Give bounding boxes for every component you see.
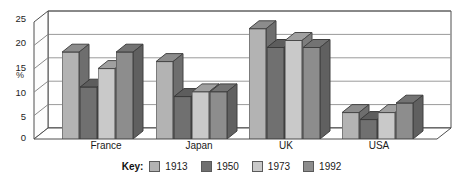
bar-japan-1992 <box>210 0 227 139</box>
legend-swatch-1973 <box>252 161 263 172</box>
legend-label-1913: 1913 <box>165 161 187 172</box>
bar-usa-1973 <box>378 0 395 139</box>
bar-uk-1913 <box>249 0 266 139</box>
chart-legend: Key: 1913 1950 1973 1992 <box>0 158 463 174</box>
category-label-uk: UK <box>256 140 316 151</box>
legend-swatch-1950 <box>201 161 212 172</box>
category-label-usa: USA <box>349 140 409 151</box>
bar-japan-1950 <box>174 0 191 139</box>
bar-japan-1973 <box>192 0 209 139</box>
legend-label-1973: 1973 <box>268 161 290 172</box>
bar-france-1913 <box>62 0 79 139</box>
legend-swatch-1992 <box>303 161 314 172</box>
category-label-japan: Japan <box>169 140 229 151</box>
legend-item-1913: 1913 <box>149 161 187 172</box>
legend-item-1973: 1973 <box>252 161 290 172</box>
bar-chart: % 25 20 15 10 5 0 <box>0 0 463 181</box>
legend-item-1950: 1950 <box>201 161 239 172</box>
legend-label-1950: 1950 <box>217 161 239 172</box>
category-label-france: France <box>76 140 136 151</box>
bar-france-1992 <box>116 0 133 139</box>
bar-uk-1992 <box>303 0 320 139</box>
bar-usa-1950 <box>360 0 377 139</box>
bar-japan-1913 <box>156 0 173 139</box>
bar-usa-1992 <box>396 0 413 139</box>
bar-uk-1973 <box>285 0 302 139</box>
legend-item-1992: 1992 <box>303 161 341 172</box>
legend-swatch-1913 <box>149 161 160 172</box>
bar-france-1950 <box>80 0 97 139</box>
bar-france-1973 <box>98 0 115 139</box>
bar-uk-1950 <box>267 0 284 139</box>
bar-usa-1913 <box>342 0 359 139</box>
legend-label-1992: 1992 <box>319 161 341 172</box>
legend-title: Key: <box>122 161 144 172</box>
